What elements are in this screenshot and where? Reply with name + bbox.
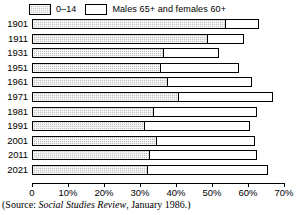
bar-segment-young-2021 <box>33 166 148 174</box>
chart-row: 1901 <box>0 18 300 31</box>
bar-segment-young-1931 <box>33 49 164 57</box>
year-label-2021: 2021 <box>0 164 28 176</box>
x-axis: 010%20%30%40%50%60%70% <box>0 183 300 199</box>
stacked-bar-1961 <box>32 77 252 87</box>
chart-row: 1911 <box>0 33 300 46</box>
chart-row: 1961 <box>0 76 300 89</box>
year-label-1901: 1901 <box>0 18 28 30</box>
chart-row: 1931 <box>0 47 300 60</box>
year-label-1971: 1971 <box>0 91 28 103</box>
chart-row: 1991 <box>0 120 300 133</box>
chart-row: 2021 <box>0 164 300 177</box>
chart-row: 1951 <box>0 62 300 75</box>
source-prefix: (Source: <box>2 199 38 210</box>
bar-segment-young-2001 <box>33 137 157 145</box>
chart-legend: 0–14 Males 65+ and females 60+ <box>29 2 235 16</box>
plot-area: 1901191119311951196119711981199120012011… <box>0 18 300 183</box>
source-suffix: , January 1986.) <box>126 199 190 210</box>
axis-tick-label-70%: 70% <box>274 187 293 198</box>
chart-row: 2011 <box>0 149 300 162</box>
year-label-1961: 1961 <box>0 76 28 88</box>
axis-tick-label-20%: 20% <box>94 187 113 198</box>
bar-segment-young-1991 <box>33 122 145 130</box>
bar-segment-young-1961 <box>33 78 168 86</box>
axis-tick-label-50%: 50% <box>202 187 221 198</box>
axis-tick-label-0: 0 <box>29 187 34 198</box>
year-label-2001: 2001 <box>0 135 28 147</box>
year-label-1931: 1931 <box>0 47 28 59</box>
stacked-bar-1971 <box>32 92 273 102</box>
chart-row: 2001 <box>0 135 300 148</box>
chart-row: 1971 <box>0 91 300 104</box>
bar-segment-young-1971 <box>33 93 179 101</box>
bar-segment-young-2011 <box>33 151 150 159</box>
population-age-structure-chart: 0–14 Males 65+ and females 60+ 190119111… <box>0 0 300 215</box>
legend-swatch-young-icon <box>29 4 51 15</box>
axis-tick-label-60%: 60% <box>238 187 257 198</box>
year-label-1981: 1981 <box>0 106 28 118</box>
stacked-bar-2001 <box>32 136 255 146</box>
stacked-bar-1991 <box>32 121 250 131</box>
year-label-2011: 2011 <box>0 149 28 161</box>
stacked-bar-1911 <box>32 34 244 44</box>
legend-label-old: Males 65+ and females 60+ <box>112 4 226 14</box>
legend-swatch-old-icon <box>85 4 107 15</box>
year-label-1951: 1951 <box>0 62 28 74</box>
bar-segment-young-1901 <box>33 20 226 28</box>
stacked-bar-1951 <box>32 63 239 73</box>
stacked-bar-1981 <box>32 107 257 117</box>
bar-segment-young-1951 <box>33 64 161 72</box>
stacked-bar-2011 <box>32 150 257 160</box>
year-label-1991: 1991 <box>0 120 28 132</box>
stacked-bar-2021 <box>32 165 268 175</box>
source-publication: Social Studies Review <box>38 199 126 210</box>
bar-segment-young-1981 <box>33 108 154 116</box>
stacked-bar-1931 <box>32 48 219 58</box>
legend-entry-old: Males 65+ and females 60+ <box>85 4 226 15</box>
axis-tick-label-30%: 30% <box>130 187 149 198</box>
axis-tick-label-40%: 40% <box>166 187 185 198</box>
source-note: (Source: Social Studies Review, January … <box>2 199 191 211</box>
year-label-1911: 1911 <box>0 33 28 45</box>
chart-row: 1981 <box>0 106 300 119</box>
bar-segment-young-1911 <box>33 35 208 43</box>
axis-tick-label-10%: 10% <box>58 187 77 198</box>
stacked-bar-1901 <box>32 19 259 29</box>
legend-entry-young: 0–14 <box>29 4 76 15</box>
legend-label-young: 0–14 <box>56 4 76 14</box>
